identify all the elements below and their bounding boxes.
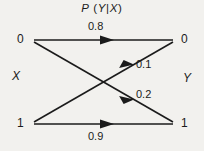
- arrowhead-x1-y1: [100, 119, 114, 128]
- output-variable-label: Y: [183, 72, 191, 84]
- node-label-x1: 1: [17, 117, 24, 129]
- edge-label-x1-y0: 0.1: [136, 59, 151, 70]
- node-label-x0: 0: [17, 33, 24, 45]
- input-variable-label: X: [12, 70, 20, 82]
- arrowhead-x0-y0: [100, 35, 114, 44]
- channel-diagram-figure: P (Y|X) 0 1 0 1 X Y 0.8 0.1 0.2 0.9: [0, 0, 204, 151]
- arrowhead-x0-y1: [119, 96, 134, 104]
- edge-label-x0-y0: 0.8: [88, 21, 103, 32]
- node-label-y1: 1: [181, 117, 188, 129]
- edge-label-x1-y1: 0.9: [88, 131, 103, 142]
- node-label-y0: 0: [181, 33, 188, 45]
- edge-label-x0-y1: 0.2: [136, 89, 151, 100]
- arrowhead-x1-y0: [119, 60, 134, 68]
